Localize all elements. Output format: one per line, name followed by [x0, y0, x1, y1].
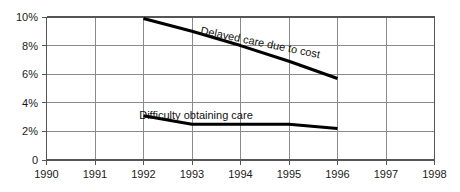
x-label-1998: 1998 — [422, 168, 446, 180]
x-label-1995: 1995 — [277, 168, 301, 180]
y-axis-labels: 10% 8% 6% 4% 2% 0 — [16, 11, 38, 166]
line-chart: 10% 8% 6% 4% 2% 0 1990 1991 1992 1993 19… — [0, 0, 460, 192]
y-label-10: 10% — [16, 11, 38, 23]
x-label-1997: 1997 — [374, 168, 398, 180]
chart-container: 10% 8% 6% 4% 2% 0 1990 1991 1992 1993 19… — [0, 0, 460, 192]
y-label-8: 8% — [22, 40, 38, 52]
y-label-6: 6% — [22, 68, 38, 80]
y-label-2: 2% — [22, 125, 38, 137]
y-label-4: 4% — [22, 97, 38, 109]
y-tick-marks — [42, 17, 47, 160]
x-label-1992: 1992 — [131, 168, 155, 180]
x-label-1993: 1993 — [180, 168, 204, 180]
series-annotation-difficulty-obtaining-care: Difficulty obtaining care — [139, 109, 253, 121]
x-label-1994: 1994 — [228, 168, 252, 180]
x-label-1996: 1996 — [325, 168, 349, 180]
x-label-1990: 1990 — [34, 168, 58, 180]
y-label-0: 0 — [32, 154, 38, 166]
x-tick-marks — [47, 160, 435, 165]
x-axis-labels: 1990 1991 1992 1993 1994 1995 1996 1997 … — [34, 168, 446, 180]
x-label-1991: 1991 — [83, 168, 107, 180]
